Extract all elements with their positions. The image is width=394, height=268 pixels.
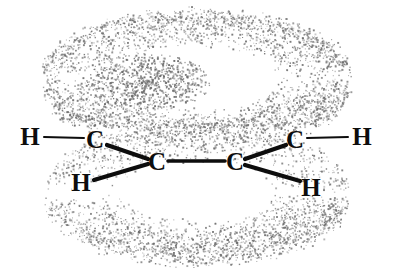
bond-c-c-upper-right — [245, 145, 286, 159]
atom-label-h-upper-right: H — [350, 124, 374, 149]
bond-h-c-lower-left — [94, 164, 148, 180]
bond-c-h-upper-right — [307, 137, 348, 138]
atom-label-c-center-right: C — [223, 149, 247, 174]
molecular-skeleton — [0, 0, 394, 268]
atom-label-c-upper-left: C — [83, 127, 107, 152]
atom-label-c-upper-right: C — [283, 127, 307, 152]
atom-label-h-lower-left: H — [69, 170, 93, 195]
atom-label-c-center-left: C — [145, 149, 169, 174]
bond-c-c-upper-left — [107, 145, 148, 159]
bond-h-c-lower-right — [245, 165, 300, 181]
ethylene-pi-orbital-figure: HCHCCCHH — [0, 0, 394, 268]
atom-label-h-lower-right: H — [299, 175, 323, 200]
bond-h-c-upper-left — [44, 137, 84, 138]
atom-label-h-upper-left: H — [18, 124, 42, 149]
